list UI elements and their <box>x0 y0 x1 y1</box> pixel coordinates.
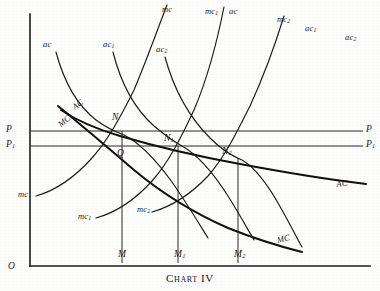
chart-caption: Chart IV <box>0 272 380 284</box>
label-mc1-bottom: mc1 <box>78 212 91 222</box>
price-level-P-right: P <box>366 125 372 135</box>
point-N: N <box>112 113 119 123</box>
output-M2: M2 <box>234 250 246 260</box>
point-Q: Q <box>117 149 124 159</box>
label-ac1-top: ac1 <box>305 24 317 34</box>
label-mc1-top: mc1 <box>205 7 218 17</box>
chart-figure: .axis {stroke:#1d1d1d;stroke-width:1.6;f… <box>0 0 380 291</box>
output-M: M <box>118 250 126 260</box>
curve-mc <box>36 5 167 196</box>
output-M1: M1 <box>174 250 186 260</box>
label-ac1: ac1 <box>103 40 115 50</box>
label-ac2-top: ac2 <box>345 33 357 43</box>
label-ac: ac <box>43 40 51 50</box>
label-mc2-bottom: mc2 <box>137 205 150 215</box>
price-level-P: P <box>6 125 12 135</box>
label-mc2-top: mc2 <box>277 15 290 25</box>
origin-label: O <box>8 262 15 272</box>
point-N2: N2 <box>222 147 232 157</box>
label-mc-top: mc <box>162 5 172 15</box>
chart-drawing-area: .axis {stroke:#1d1d1d;stroke-width:1.6;f… <box>0 0 380 291</box>
label-mc-left: mc <box>18 190 28 200</box>
price-level-P1: P1 <box>6 140 15 150</box>
label-AC-right: AC <box>336 179 348 189</box>
point-N1: N1 <box>164 134 174 144</box>
label-ac-top: ac <box>229 7 237 17</box>
label-ac2: ac2 <box>156 45 168 55</box>
price-level-P1-right: P1 <box>366 140 375 150</box>
